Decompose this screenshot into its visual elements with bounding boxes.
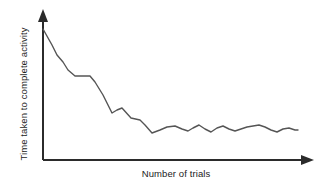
- y-axis-label: Time taken to complete activity: [18, 27, 29, 160]
- learning-curve-chart: Number of trials Time taken to complete …: [0, 0, 330, 188]
- chart-canvas: Number of trials Time taken to complete …: [0, 0, 330, 188]
- x-axis-label: Number of trials: [142, 168, 211, 179]
